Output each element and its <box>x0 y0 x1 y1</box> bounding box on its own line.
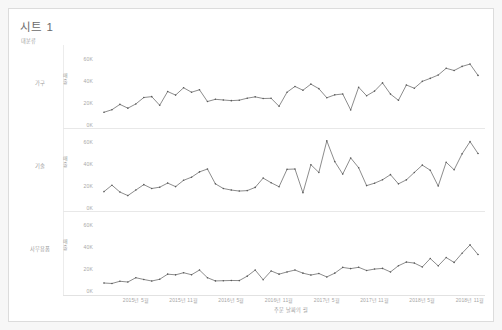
y-tick-label: 60K <box>84 139 94 145</box>
y-tick-label: 40K <box>84 244 94 250</box>
panel-office-supplies[interactable]: 사무용품 매출 60K40K20K0K <box>19 213 485 295</box>
row-label-2: 사무용품 <box>21 245 59 253</box>
y-tick-label: 0K <box>86 122 93 128</box>
x-tick-label: 2018년 5월 <box>409 296 435 303</box>
y-tick-label: 60K <box>84 222 94 228</box>
plot-area-2[interactable] <box>97 213 485 295</box>
x-tick-label: 2015년 5월 <box>123 296 149 303</box>
y-tick-label: 20K <box>84 266 94 272</box>
y-tick-label: 20K <box>84 100 94 106</box>
x-tick-label: 2016년 5월 <box>218 296 244 303</box>
worksheet-title: 시트 1 <box>20 18 53 34</box>
y-tick-label: 0K <box>86 205 93 211</box>
worksheet-card: 시트 1 대분류 가구 매출 60K40K20K0K 기술 매출 60K40K2… <box>8 8 494 322</box>
line-series-가구 <box>97 47 485 129</box>
x-tick-label: 2015년 11월 <box>169 296 198 303</box>
x-tick-label: 2017년 11월 <box>360 296 389 303</box>
rows-field-label: 대분류 <box>21 37 37 44</box>
y-axis-ticks-1: 60K40K20K0K <box>69 130 95 212</box>
panel-furniture[interactable]: 가구 매출 60K40K20K0K <box>19 47 485 129</box>
x-tick-label: 2018년 11월 <box>456 296 485 303</box>
x-tick-label: 2016년 11월 <box>265 296 294 303</box>
y-tick-label: 40K <box>84 78 94 84</box>
y-axis-ticks-2: 60K40K20K0K <box>69 213 95 295</box>
chart-region: 가구 매출 60K40K20K0K 기술 매출 60K40K20K0K 사무용품… <box>19 45 485 313</box>
x-tick-label: 2017년 5월 <box>314 296 340 303</box>
plot-area-0[interactable] <box>97 47 485 129</box>
y-tick-label: 40K <box>84 161 94 167</box>
row-label-0: 가구 <box>21 79 59 87</box>
y-tick-label: 60K <box>84 56 94 62</box>
y-tick-label: 20K <box>84 183 94 189</box>
screenshot-root: 시트 1 대분류 가구 매출 60K40K20K0K 기술 매출 60K40K2… <box>0 0 502 330</box>
plot-area-1[interactable] <box>97 130 485 212</box>
y-tick-label: 0K <box>86 288 93 294</box>
row-label-1: 기술 <box>21 162 59 170</box>
x-axis-title: 주문 날짜의 월 <box>97 306 485 313</box>
line-series-사무용품 <box>97 213 485 295</box>
line-series-기술 <box>97 130 485 212</box>
panel-technology[interactable]: 기술 매출 60K40K20K0K <box>19 130 485 212</box>
y-axis-ticks-0: 60K40K20K0K <box>69 47 95 129</box>
